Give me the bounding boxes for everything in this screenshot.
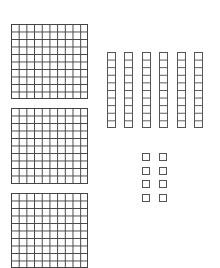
ten-rod bbox=[107, 52, 116, 128]
hundred-flat bbox=[11, 24, 88, 99]
unit-cube bbox=[142, 194, 150, 202]
unit-cube bbox=[159, 180, 167, 188]
ten-rod bbox=[124, 52, 133, 128]
unit-cube bbox=[159, 167, 167, 175]
diagram-title: Base-ten blocks bbox=[0, 0, 1, 1]
unit-cube bbox=[159, 194, 167, 202]
unit-cube bbox=[142, 180, 150, 188]
ten-rod bbox=[194, 52, 203, 128]
unit-cube bbox=[142, 167, 150, 175]
hundred-flat bbox=[11, 108, 88, 184]
ten-rod bbox=[142, 52, 151, 128]
unit-cube bbox=[159, 153, 167, 161]
unit-cube bbox=[142, 153, 150, 161]
hundred-flat bbox=[11, 193, 88, 268]
ten-rod bbox=[177, 52, 186, 128]
ten-rod bbox=[159, 52, 168, 128]
